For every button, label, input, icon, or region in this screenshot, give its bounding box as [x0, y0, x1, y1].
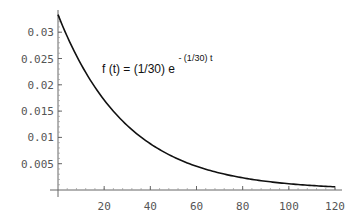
formula-main: f (t) = (1/30) e — [102, 62, 175, 76]
x-tick-label: 60 — [190, 200, 203, 213]
x-tick-label: 80 — [236, 200, 249, 213]
x-tick-label: 20 — [98, 200, 111, 213]
exponential-density-chart: 0.0050.010.0150.020.0250.03 204060801001… — [0, 0, 362, 223]
x-tick-label: 40 — [144, 200, 157, 213]
y-tick-label: 0.025 — [21, 53, 54, 66]
curve-f-t — [58, 15, 335, 187]
formula-exponent: - (1/30) t — [178, 53, 213, 63]
y-axis: 0.0050.010.0150.020.0250.03 — [21, 10, 62, 197]
x-tick-label: 100 — [279, 200, 299, 213]
y-tick-label: 0.02 — [28, 79, 55, 92]
x-axis: 20406080100120 — [50, 186, 345, 213]
y-tick-label: 0.01 — [28, 131, 55, 144]
y-tick-label: 0.005 — [21, 158, 54, 171]
formula-label: f (t) = (1/30) e - (1/30) t — [102, 53, 213, 76]
y-tick-label: 0.03 — [28, 26, 55, 39]
x-tick-label: 120 — [325, 200, 345, 213]
y-tick-label: 0.015 — [21, 105, 54, 118]
